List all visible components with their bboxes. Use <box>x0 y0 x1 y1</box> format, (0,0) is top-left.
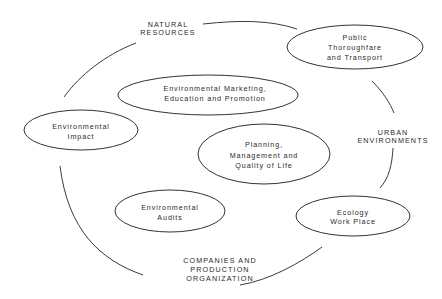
node-ecology-work-place: Ecology Work Place <box>296 196 410 236</box>
node-text: Planning, <box>245 140 283 149</box>
node-text: Education and Promotion <box>164 94 265 103</box>
node-text: Environmental Marketing, <box>163 84 266 93</box>
label-urban-environments: URBAN ENVIRONMENTS <box>357 128 428 145</box>
node-text: and Transport <box>327 53 383 62</box>
arc-impact-to-natural <box>64 43 136 97</box>
label-line: COMPANIES AND <box>183 256 257 265</box>
node-text: Environmental <box>52 122 110 131</box>
node-text: Ecology <box>337 208 369 217</box>
arc-urban-to-ecology <box>380 148 393 188</box>
node-text: Audits <box>157 213 182 222</box>
node-text: Environmental <box>141 203 199 212</box>
arc-natural-to-public <box>203 21 297 29</box>
node-environmental-marketing: Environmental Marketing, Education and P… <box>118 75 298 115</box>
node-text: Quality of Life <box>235 161 292 170</box>
node-text: Public <box>343 33 368 42</box>
node-text: Thoroughfare <box>328 43 382 52</box>
node-public-thoroughfare: Public Thoroughfare and Transport <box>287 25 423 69</box>
node-text: Work Place <box>330 217 376 226</box>
node-environmental-audits: Environmental Audits <box>115 190 225 232</box>
label-line: ORGANIZATION <box>186 274 253 283</box>
label-line: ENVIRONMENTS <box>357 136 428 145</box>
node-text: Impact <box>68 132 95 141</box>
node-environmental-impact: Environmental Impact <box>24 110 138 150</box>
label-companies-production-organization: COMPANIES AND PRODUCTION ORGANIZATION <box>183 256 257 283</box>
label-line: PRODUCTION <box>190 265 249 274</box>
arc-companies-to-impact <box>60 166 143 275</box>
cycle-diagram: NATURAL RESOURCES URBAN ENVIRONMENTS COM… <box>0 0 442 299</box>
label-line: RESOURCES <box>140 28 195 37</box>
node-planning: Planning, Management and Quality of Life <box>198 124 330 184</box>
node-text: Management and <box>230 151 299 160</box>
label-natural-resources: NATURAL RESOURCES <box>140 20 195 37</box>
arc-public-to-urban <box>372 81 394 113</box>
